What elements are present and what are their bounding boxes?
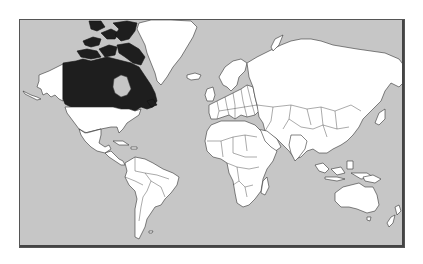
cuba <box>113 141 129 145</box>
scandinavia <box>219 59 247 91</box>
new-guinea <box>363 175 381 183</box>
map-title: World map <box>0 0 1 1</box>
falkland-islands <box>149 231 153 233</box>
japan <box>375 109 385 125</box>
new-zealand <box>387 205 401 227</box>
south-america <box>125 157 179 239</box>
uk-ireland <box>205 87 215 101</box>
alaska <box>37 64 63 101</box>
tasmania <box>367 217 371 221</box>
aleutian-islands <box>23 91 41 100</box>
central-america <box>105 151 125 165</box>
australia <box>335 183 379 213</box>
india <box>289 135 307 161</box>
united-states <box>65 107 141 133</box>
world-map <box>19 19 405 248</box>
world-map-svg <box>20 20 405 248</box>
hispaniola <box>131 147 137 149</box>
iceland <box>187 73 201 80</box>
mexico <box>79 129 111 153</box>
